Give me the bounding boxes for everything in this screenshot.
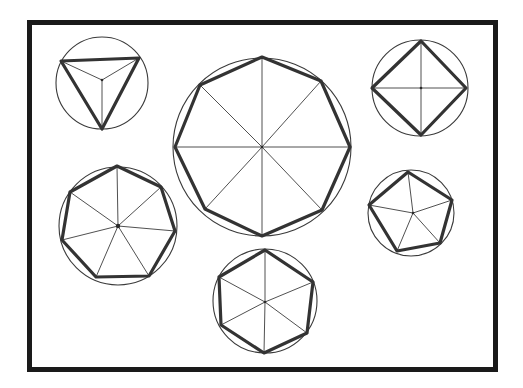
hexagon-radius-line <box>264 302 265 353</box>
hexagon-radius-line <box>265 282 313 302</box>
heptagon-radius-line <box>118 226 175 231</box>
hexagon-radius-line <box>219 277 265 302</box>
heptagon-center-point <box>116 224 120 228</box>
octagon-radius-line <box>205 147 262 209</box>
pentagon-radius-line <box>408 172 413 213</box>
shapes-layer <box>56 37 468 353</box>
triangle-figure <box>56 37 148 129</box>
triangle-center-point <box>101 79 104 82</box>
pentagon-radius-line <box>413 213 440 243</box>
pentagon-radius-line <box>413 200 452 213</box>
heptagon-radius-line <box>62 226 118 240</box>
hexagon-figure <box>213 249 317 353</box>
pentagon-figure <box>368 170 454 256</box>
pentagon-polygon <box>369 172 452 251</box>
square-figure <box>372 40 468 136</box>
heptagon-radius-line <box>70 192 118 226</box>
heptagon-radius-line <box>118 187 161 226</box>
heptagon-radius-line <box>96 226 118 277</box>
octagon-radius-line <box>262 81 321 147</box>
hexagon-center-point <box>264 301 267 304</box>
hexagon-radius-line <box>265 302 307 333</box>
square-center-point <box>420 87 423 90</box>
octagon-radius-line <box>262 147 322 210</box>
outer-frame <box>30 23 496 370</box>
octagon-center-point <box>261 146 264 149</box>
heptagon-radius-line <box>117 166 118 226</box>
pentagon-center-point <box>412 212 415 215</box>
pentagon-radius-line <box>369 205 413 213</box>
diagram-canvas <box>0 0 523 388</box>
heptagon-radius-line <box>118 226 149 276</box>
heptagon-figure <box>59 166 177 285</box>
hexagon-radius-line <box>221 302 265 325</box>
polygons-diagram <box>0 0 523 388</box>
pentagon-radius-line <box>397 213 413 251</box>
octagon-figure <box>173 57 351 236</box>
octagon-radius-line <box>200 85 262 147</box>
